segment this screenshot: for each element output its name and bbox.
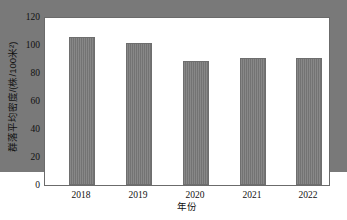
- plot-frame: [44, 17, 330, 186]
- bar-2020: [183, 61, 209, 185]
- x-tick-label: 2021: [229, 190, 275, 200]
- bar-chart-figure: 120 100 80 60 40 20 0 群落平均密度/(株/100米²): [0, 0, 347, 172]
- plot-area: [45, 18, 329, 185]
- bar-2021: [240, 58, 266, 185]
- x-tick-label: 2022: [285, 190, 331, 200]
- bar-2022: [296, 58, 322, 185]
- x-tick-label: 2019: [115, 190, 161, 200]
- x-tick-label: 2020: [172, 190, 218, 200]
- x-axis-title: 年份: [44, 202, 330, 212]
- bar-2018: [69, 37, 95, 185]
- bar-2019: [126, 43, 152, 185]
- y-tick-label: 0: [14, 181, 40, 191]
- y-axis-title: 群落平均密度/(株/100米²): [8, 22, 18, 172]
- x-tick-label: 2018: [58, 190, 104, 200]
